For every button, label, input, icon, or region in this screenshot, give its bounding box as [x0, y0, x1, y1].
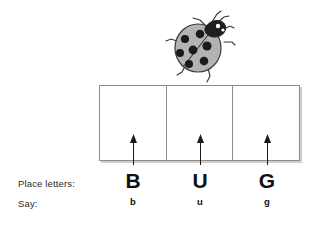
place-letters-label: Place letters:: [18, 178, 75, 189]
place-letter-2: U: [180, 170, 220, 191]
up-arrow-icon-2: [196, 134, 205, 166]
place-letter-1: B: [113, 170, 153, 191]
up-arrow-icon-3: [263, 134, 272, 166]
place-letter-3: G: [247, 170, 287, 191]
say-letter-2: u: [180, 197, 220, 207]
worksheet-page: Place letters: Say: B U G b u g: [0, 0, 318, 228]
say-label: Say:: [18, 198, 38, 209]
say-letter-3: g: [247, 197, 287, 207]
say-letter-1: b: [113, 197, 153, 207]
ladybug-icon: [160, 6, 236, 84]
up-arrow-icon-1: [129, 134, 138, 166]
